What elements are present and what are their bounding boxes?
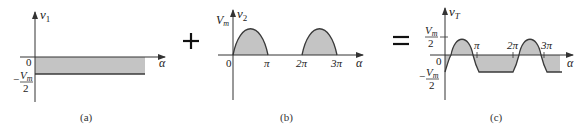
plus-operator — [183, 33, 199, 49]
y-axis-label: v2 — [237, 6, 247, 23]
tick-pi: π — [264, 57, 270, 69]
tick-2pi: 2π — [507, 39, 519, 51]
svg-text:2: 2 — [429, 79, 435, 91]
vm-peak-label: Vm — [216, 13, 229, 28]
hump-1-fill — [233, 29, 268, 55]
tick-0: 0 — [226, 57, 232, 69]
superposition-figure: v1 0 α − Vm 2 (a) v2 Vm 0 π 2π 3π α (b) — [0, 0, 586, 131]
y-axis-label: vT — [449, 4, 461, 21]
caption-c: (c) — [490, 111, 503, 124]
tick-pi: π — [474, 39, 480, 51]
origin-label: 0 — [26, 56, 32, 68]
x-axis-label: α — [356, 56, 363, 70]
tick-3pi: 3π — [540, 39, 553, 51]
svg-text:2: 2 — [23, 82, 29, 94]
svg-text:Vm: Vm — [20, 69, 33, 83]
tick-3pi: 3π — [330, 57, 343, 69]
hump-2-fill — [302, 29, 337, 55]
panel-b: v2 Vm 0 π 2π 3π α (b) — [216, 6, 363, 124]
panel-a: v1 0 α − Vm 2 (a) — [13, 7, 166, 124]
svg-text:Vm: Vm — [426, 66, 439, 80]
y-axis-label: v1 — [40, 7, 50, 24]
panel-c: vT Vm 2 0 − Vm 2 π 2π 3π α (c) — [419, 4, 574, 124]
vm-half-label: Vm 2 — [425, 24, 438, 49]
neg-vm-half-label: − Vm 2 — [13, 69, 33, 94]
svg-text:Vm: Vm — [425, 24, 438, 38]
tick-2pi: 2π — [296, 57, 308, 69]
svg-text:2: 2 — [428, 37, 434, 49]
caption-a: (a) — [80, 111, 93, 124]
x-axis-label: α — [567, 56, 574, 70]
svg-text:−: − — [419, 70, 425, 82]
svg-text:−: − — [13, 73, 19, 85]
neg-vm-half-label: − Vm 2 — [419, 66, 439, 91]
caption-b: (b) — [280, 111, 293, 124]
x-axis-label: α — [159, 56, 166, 70]
equals-operator — [393, 37, 409, 44]
constant-level-fill — [35, 57, 145, 74]
origin-label: 0 — [436, 55, 442, 67]
